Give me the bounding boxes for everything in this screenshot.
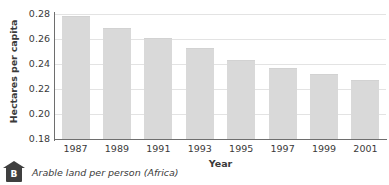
caption-badge-label: B: [6, 167, 22, 182]
x-tick-label: 1987: [55, 143, 96, 157]
bar-slot: [304, 14, 345, 139]
bar-slot: [96, 14, 137, 139]
caption-badge-icon: B: [3, 161, 25, 183]
bar-slot: [262, 14, 303, 139]
y-axis-tick-labels: 0.280.260.240.220.200.18: [18, 0, 50, 150]
bar: [103, 28, 131, 139]
caption-text: Arable land per person (Africa): [32, 167, 179, 178]
bar: [62, 16, 90, 139]
y-tick-label: 0.18: [18, 134, 50, 144]
bar-slot: [345, 14, 386, 139]
x-tick-label: 1993: [179, 143, 220, 157]
y-tick-label: 0.24: [18, 59, 50, 69]
bar-slot: [221, 14, 262, 139]
x-axis-tick-labels: 19871989199119931995199719992001: [55, 143, 386, 157]
figure-caption: B Arable land per person (Africa): [3, 160, 179, 184]
plot-area: [55, 14, 386, 139]
x-tick-label: 1995: [221, 143, 262, 157]
y-tick-label: 0.26: [18, 34, 50, 44]
bar: [310, 74, 338, 139]
bar: [227, 60, 255, 140]
y-tick-label: 0.22: [18, 84, 50, 94]
x-tick-label: 1999: [304, 143, 345, 157]
bar-slot: [179, 14, 220, 139]
x-tick-label: 1991: [138, 143, 179, 157]
bar: [186, 48, 214, 139]
x-tick-label: 1997: [262, 143, 303, 157]
chart-figure: Hectares per capita 0.280.260.240.220.20…: [0, 0, 389, 185]
y-tick-label: 0.28: [18, 9, 50, 19]
bar-slot: [138, 14, 179, 139]
bar-slot: [55, 14, 96, 139]
y-tick-label: 0.20: [18, 109, 50, 119]
x-axis-line: [54, 139, 387, 140]
x-tick-label: 1989: [96, 143, 137, 157]
bar: [269, 68, 297, 139]
bar-series: [55, 14, 386, 139]
x-tick-label: 2001: [345, 143, 386, 157]
bar: [351, 80, 379, 140]
bar: [144, 38, 172, 139]
y-axis-title: Hectares per capita: [8, 7, 19, 137]
